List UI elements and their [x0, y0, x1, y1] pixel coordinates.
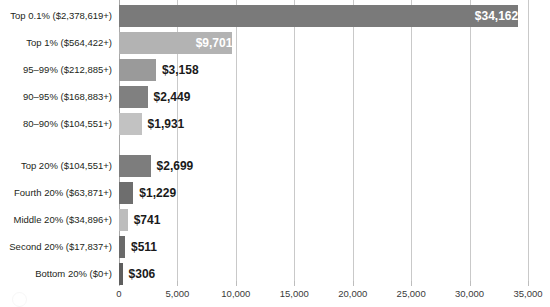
bar-value-label: $2,449 — [154, 86, 191, 108]
bar — [119, 59, 156, 81]
bar-row: Top 1% ($564,422+)$9,701 — [119, 32, 528, 54]
bar-value-label: $2,699 — [157, 155, 194, 177]
x-axis-tick-label: 15,000 — [264, 288, 324, 299]
gridline — [528, 0, 529, 281]
x-axis-tick-label: 20,000 — [323, 288, 383, 299]
category-label: Top 0.1% ($2,378,619+) — [0, 5, 112, 27]
decorative-corner-mark — [12, 292, 27, 307]
x-axis-tick-label: 0 — [89, 288, 149, 299]
category-label: 95–99% ($212,885+) — [0, 59, 112, 81]
category-label: Top 20% ($104,551+) — [0, 155, 112, 177]
bar-row: 80–90% ($104,551+)$1,931 — [119, 113, 528, 135]
bar-value-label: $306 — [129, 263, 156, 285]
bar-row: Top 0.1% ($2,378,619+)$34,162 — [119, 5, 528, 27]
bar-row: Top 20% ($104,551+)$2,699 — [119, 155, 528, 177]
category-label: Second 20% ($17,837+) — [0, 236, 112, 258]
bar — [119, 209, 128, 231]
bar-row: Second 20% ($17,837+)$511 — [119, 236, 528, 258]
bar — [119, 86, 148, 108]
plot-area: Top 0.1% ($2,378,619+)$34,162Top 1% ($56… — [119, 0, 528, 281]
bar — [119, 113, 142, 135]
bar-value-label: $511 — [131, 236, 157, 258]
x-axis-tick-label: 10,000 — [206, 288, 266, 299]
bar-row: Middle 20% ($34,896+)$741 — [119, 209, 528, 231]
bar-value-label: $3,158 — [162, 59, 199, 81]
bar-row: Bottom 20% ($0+)$306 — [119, 263, 528, 285]
x-axis-tick-label: 35,000 — [498, 288, 550, 299]
bar — [119, 155, 151, 177]
category-label: Bottom 20% ($0+) — [0, 263, 112, 285]
bar-value-label: $1,229 — [139, 182, 176, 204]
bar-row: 90–95% ($168,883+)$2,449 — [119, 86, 528, 108]
bar — [119, 236, 125, 258]
bar-row: Fourth 20% ($63,871+)$1,229 — [119, 182, 528, 204]
category-label: Top 1% ($564,422+) — [0, 32, 112, 54]
bar-value-label: $9,701 — [119, 32, 232, 54]
x-axis-tick — [528, 281, 529, 286]
bar-value-label: $1,931 — [148, 113, 185, 135]
bar-value-label: $741 — [134, 209, 161, 231]
category-label: 90–95% ($168,883+) — [0, 86, 112, 108]
x-axis-tick-label: 25,000 — [381, 288, 441, 299]
bar-row: 95–99% ($212,885+)$3,158 — [119, 59, 528, 81]
bar — [119, 263, 123, 285]
category-label: Middle 20% ($34,896+) — [0, 209, 112, 231]
x-axis-tick-label: 30,000 — [440, 288, 500, 299]
bar — [119, 182, 133, 204]
bar-value-label: $34,162 — [119, 5, 518, 27]
x-axis-tick-label: 5,000 — [147, 288, 207, 299]
category-label: Fourth 20% ($63,871+) — [0, 182, 112, 204]
category-label: 80–90% ($104,551+) — [0, 113, 112, 135]
